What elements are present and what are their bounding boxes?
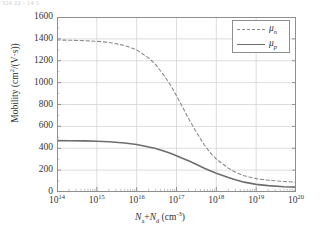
x-tick-label: 1016 [117, 195, 157, 205]
x-tick-exponent: 18 [218, 193, 225, 200]
x-tick-mantissa: 10 [288, 195, 298, 205]
legend[interactable]: μn μp [232, 20, 290, 53]
x-tick-exponent: 17 [178, 193, 185, 200]
x-tick-label: 1017 [157, 195, 197, 205]
x-tick-exponent: 19 [258, 193, 265, 200]
x-axis-unit-open: (cm [159, 212, 176, 222]
y-tick-label: 400 [19, 142, 53, 152]
x-tick-mantissa: 10 [129, 195, 139, 205]
mobility-vs-doping-figure: 324 22 - 14 5 Mobility (cm2/(V·s)) Na+Nd… [0, 0, 320, 236]
x-tick-label: 1015 [77, 195, 117, 205]
legend-entry-mu-n[interactable]: μn [233, 22, 291, 38]
y-axis-title-superscript: 2 [8, 69, 15, 72]
y-tick-label: 1600 [19, 11, 53, 21]
y-tick-label: 200 [19, 164, 53, 174]
x-tick-label: 1019 [236, 195, 276, 205]
x-tick-label: 1014 [37, 195, 77, 205]
x-tick-mantissa: 10 [248, 195, 258, 205]
x-tick-mantissa: 10 [49, 195, 59, 205]
x-tick-mantissa: 10 [89, 195, 99, 205]
x-tick-mantissa: 10 [169, 195, 179, 205]
x-tick-mantissa: 10 [208, 195, 218, 205]
y-tick-label: 1200 [19, 55, 53, 65]
x-tick-exponent: 15 [98, 193, 105, 200]
y-tick-label: 600 [19, 120, 53, 130]
y-tick-label: 1400 [19, 33, 53, 43]
x-tick-label: 1018 [196, 195, 236, 205]
legend-sample-dashed-line [237, 29, 265, 30]
x-tick-exponent: 14 [59, 193, 66, 200]
x-tick-exponent: 20 [298, 193, 305, 200]
legend-label-mu-p: μp [269, 38, 277, 48]
top-page-artifact-text: 324 22 - 14 5 [2, 0, 82, 8]
x-tick-label: 1020 [276, 195, 316, 205]
legend-entry-mu-p[interactable]: μp [233, 37, 291, 53]
y-tick-label: 1000 [19, 77, 53, 87]
y-tick-label: 800 [19, 99, 53, 109]
legend-sample-solid-line [237, 44, 265, 45]
legend-label-mu-n: μn [269, 23, 277, 33]
x-axis-unit-close: ) [182, 212, 185, 222]
x-axis-title: Na+Nd (cm-3) [0, 212, 320, 222]
x-tick-exponent: 16 [138, 193, 145, 200]
